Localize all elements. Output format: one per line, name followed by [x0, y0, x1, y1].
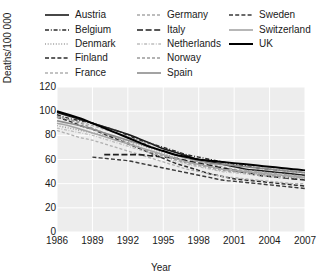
legend-line-swatch-germany — [136, 10, 162, 20]
y-axis-label: Deaths/100 000 — [2, 0, 14, 108]
legend-label-france: France — [75, 68, 106, 78]
legend-item-uk[interactable]: UK — [228, 37, 316, 51]
legend-label-spain: Spain — [167, 68, 193, 78]
legend-line-swatch-austria — [44, 10, 70, 20]
x-axis-ticks: 19861989199219951998200120042007 — [0, 236, 322, 250]
x-tick-label-1992: 1992 — [108, 236, 148, 246]
y-tick-label-80: 80 — [22, 130, 56, 140]
legend-item-france[interactable]: France — [44, 66, 136, 80]
x-tick-label-1989: 1989 — [72, 236, 112, 246]
y-tick-label-100: 100 — [22, 106, 56, 116]
legend-item-netherlands[interactable]: Netherlands — [136, 37, 228, 51]
legend-label-germany: Germany — [167, 10, 208, 20]
legend-label-netherlands: Netherlands — [167, 39, 221, 49]
legend-line-swatch-denmark — [44, 39, 70, 49]
legend-label-finland: Finland — [75, 53, 108, 63]
legend-item-sweden[interactable]: Sweden — [228, 8, 316, 22]
legend-line-swatch-belgium — [44, 25, 70, 35]
y-tick-label-40: 40 — [22, 179, 56, 189]
legend-label-denmark: Denmark — [75, 39, 116, 49]
legend-item-spain[interactable]: Spain — [136, 66, 228, 80]
legend-label-sweden: Sweden — [259, 10, 295, 20]
y-axis-ticks: 020406080100120 — [18, 84, 56, 244]
legend-label-austria: Austria — [75, 10, 106, 20]
x-tick-label-2001: 2001 — [214, 236, 254, 246]
legend-line-swatch-netherlands — [136, 39, 162, 49]
legend-item-italy[interactable]: Italy — [136, 22, 228, 36]
legend-line-swatch-finland — [44, 53, 70, 63]
x-tick-label-2004: 2004 — [250, 236, 290, 246]
x-tick-label-2007: 2007 — [285, 236, 322, 246]
x-tick-label-1995: 1995 — [143, 236, 183, 246]
x-axis-label: Year — [0, 262, 322, 273]
legend-item-austria[interactable]: Austria — [44, 8, 136, 22]
legend-label-norway: Norway — [167, 53, 201, 63]
x-tick-label-1986: 1986 — [37, 236, 77, 246]
legend-column-1: AustriaBelgiumDenmarkFinlandFrance — [44, 8, 136, 82]
y-tick-label-20: 20 — [22, 203, 56, 213]
legend-line-swatch-sweden — [228, 10, 254, 20]
legend-item-germany[interactable]: Germany — [136, 8, 228, 22]
legend-line-swatch-italy — [136, 25, 162, 35]
legend-item-finland[interactable]: Finland — [44, 51, 136, 65]
legend-item-belgium[interactable]: Belgium — [44, 22, 136, 36]
legend-item-norway[interactable]: Norway — [136, 51, 228, 65]
legend-line-swatch-uk — [228, 39, 254, 49]
y-tick-label-120: 120 — [22, 82, 56, 92]
legend-column-2: GermanyItalyNetherlandsNorwaySpain — [136, 8, 228, 82]
legend-item-denmark[interactable]: Denmark — [44, 37, 136, 51]
legend-column-3: SwedenSwitzerlandUK — [228, 8, 316, 82]
legend-item-switzerland[interactable]: Switzerland — [228, 22, 316, 36]
legend-label-uk: UK — [259, 39, 273, 49]
legend-line-swatch-switzerland — [228, 25, 254, 35]
y-tick-label-60: 60 — [22, 155, 56, 165]
chart-legend: AustriaBelgiumDenmarkFinlandFranceGerman… — [44, 8, 316, 82]
legend-label-italy: Italy — [167, 25, 185, 35]
x-tick-label-1998: 1998 — [179, 236, 219, 246]
legend-label-belgium: Belgium — [75, 25, 111, 35]
legend-line-swatch-france — [44, 68, 70, 78]
chart-figure: AustriaBelgiumDenmarkFinlandFranceGerman… — [0, 0, 322, 278]
legend-line-swatch-norway — [136, 53, 162, 63]
legend-label-switzerland: Switzerland — [259, 25, 311, 35]
legend-line-swatch-spain — [136, 68, 162, 78]
